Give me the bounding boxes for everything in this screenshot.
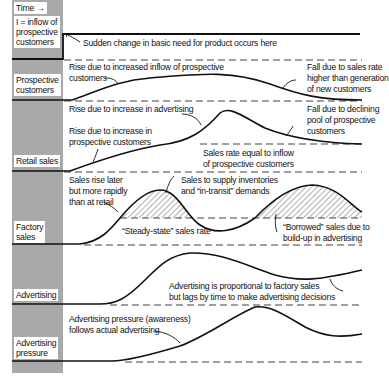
note-line: “Borrowed” sales due to: [283, 222, 370, 233]
label-line: Prospective: [16, 75, 59, 85]
note-line: higher than generation: [307, 73, 389, 84]
label-line: I = inflow of: [16, 17, 58, 27]
note-line: Fall due to sales rate: [307, 62, 389, 73]
note-factory-later: Sales rise later but more rapidly than a…: [69, 175, 127, 208]
time-axis-label: Time →: [14, 2, 47, 14]
label-line: sales: [16, 232, 43, 242]
label-line: Retail sales: [16, 156, 58, 166]
note-line: of prospective customers: [203, 159, 294, 170]
label-advertising-pressure: Advertising pressure: [14, 337, 58, 359]
label-prospective-customers: Prospective customers: [14, 74, 61, 96]
label-line: customers: [16, 85, 59, 95]
note-retail-rise-advertising: Rise due to increase in advertising: [69, 104, 193, 115]
note-factory-supply: Sales to supply inventories and “in-tran…: [181, 175, 278, 197]
note-line: prospective customers: [69, 137, 152, 148]
label-line: prospective: [16, 27, 58, 37]
note-advertising: Advertising is proportional to factory s…: [169, 281, 335, 303]
label-retail-sales: Retail sales: [14, 155, 60, 167]
label-inflow: I = inflow of prospective customers: [14, 16, 60, 48]
note-line: Rise due to increase in: [69, 126, 152, 137]
note-line: Sales rise later: [69, 175, 127, 186]
note-advertising-pressure: Advertising pressure (awareness) follows…: [69, 314, 191, 336]
note-line: Advertising pressure (awareness): [69, 314, 191, 325]
note-retail-equal: Sales rate equal to inflow of prospectiv…: [203, 148, 294, 170]
label-advertising: Advertising: [14, 289, 58, 301]
note-line: but more rapidly: [69, 186, 127, 197]
note-retail-fall: Fall due to declining pool of prospectiv…: [307, 104, 379, 137]
note-line: than at retail: [69, 197, 127, 208]
note-line: pool of prospective: [307, 115, 379, 126]
note-line: of new customers: [307, 84, 389, 95]
arrow-right-icon: →: [36, 3, 44, 13]
note-prospective-fall: Fall due to sales rate higher than gener…: [307, 62, 389, 95]
note-line: Advertising is proportional to factory s…: [169, 281, 335, 292]
note-line: Sales to supply inventories: [181, 175, 278, 186]
note-retail-rise-prospective: Rise due to increase in prospective cust…: [69, 126, 152, 148]
note-line: Sales rate equal to inflow: [203, 148, 294, 159]
label-factory-sales: Factory sales: [14, 221, 45, 243]
note-factory-borrowed: “Borrowed” sales due to build-up in adve…: [283, 222, 370, 244]
time-label-text: Time: [16, 3, 34, 13]
note-line: Rise due to increased inflow of prospect…: [69, 62, 224, 73]
note-line: build-up in advertising: [283, 233, 370, 244]
note-sudden-change: Sudden change in basic need for product …: [83, 38, 277, 49]
label-line: Advertising: [16, 290, 56, 300]
note-line: customers: [307, 126, 379, 137]
note-line: follows actual advertising: [69, 325, 191, 336]
note-line: and “in-transit” demands: [181, 186, 278, 197]
label-line: pressure: [16, 348, 56, 358]
label-line: customers: [16, 37, 58, 47]
label-line: Advertising: [16, 338, 56, 348]
label-line: Factory: [16, 222, 43, 232]
note-line: but lags by time to make advertising dec…: [169, 292, 335, 303]
note-prospective-rise: Rise due to increased inflow of prospect…: [69, 62, 224, 84]
note-line: Fall due to declining: [307, 104, 379, 115]
note-factory-steady: “Steady-state” sales rate: [122, 226, 211, 237]
note-line: customers: [69, 73, 224, 84]
